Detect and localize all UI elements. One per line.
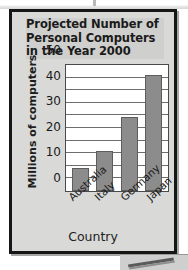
x-axis-tick-labels: AustraliaItalyGermanyJapan <box>65 194 169 230</box>
page-left-margin <box>0 9 9 259</box>
y-tick-10: 10 <box>46 145 61 159</box>
y-axis-tick-labels: 01020304050 <box>37 64 61 192</box>
chart-figure: Projected Number of Personal Computers i… <box>9 9 177 254</box>
page-top-artifact <box>0 0 188 9</box>
chart-title-line-1: Projected Number of <box>26 18 164 32</box>
y-tick-40: 40 <box>46 69 61 83</box>
y-tick-50: 50 <box>46 43 61 57</box>
y-tick-20: 20 <box>46 120 61 134</box>
page-bottom-artifact <box>120 254 188 270</box>
y-tick-30: 30 <box>46 94 61 108</box>
y-tick-0: 0 <box>53 171 61 185</box>
x-axis-label: Country <box>12 229 174 244</box>
